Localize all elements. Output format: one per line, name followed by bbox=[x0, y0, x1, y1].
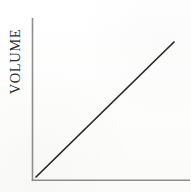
volume-trend-line bbox=[36, 42, 174, 177]
y-axis-label-text: VOLUME bbox=[8, 28, 25, 94]
plot-area bbox=[0, 0, 191, 192]
chart-figure: VOLUME bbox=[0, 0, 191, 192]
